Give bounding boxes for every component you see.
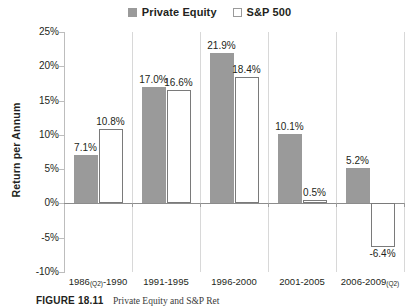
group-separator	[336, 32, 337, 272]
y-axis-tick-mark	[59, 135, 64, 136]
y-axis-tick-mark	[59, 66, 64, 67]
figure-caption: FIGURE 18.11 Private Equity and S&P Ret	[36, 295, 419, 306]
bar-value-label: -6.4%	[363, 249, 403, 259]
bar-private-equity[interactable]	[210, 53, 234, 203]
y-axis-tick-mark	[59, 203, 64, 204]
y-axis-tick-mark	[59, 101, 64, 102]
y-axis-tick-label: 10%	[19, 130, 59, 140]
y-axis-tick-mark	[59, 169, 64, 170]
bar-sp500[interactable]	[99, 129, 123, 203]
plot-area: 7.1%10.8%17.0%16.6%21.9%18.4%10.1%0.5%5.…	[64, 32, 404, 272]
x-axis-category-label: 1986(Q2)-1990	[64, 276, 132, 288]
chart-legend: Private Equity S&P 500	[0, 6, 419, 18]
x-axis-category-label: 1991-1995	[132, 276, 200, 287]
y-axis-tick-mark	[59, 238, 64, 239]
x-axis-tick-mark	[268, 203, 269, 207]
legend-swatch-filled-square-icon	[128, 8, 137, 17]
y-axis-tick-label: 5%	[19, 164, 59, 174]
legend-label-private-equity: Private Equity	[142, 6, 217, 18]
bar-value-label: 10.1%	[270, 122, 310, 132]
x-axis-category-label: 2001-2005	[268, 276, 336, 287]
legend-item-sp500: S&P 500	[233, 6, 292, 18]
y-axis-tick-mark	[59, 32, 64, 33]
bar-value-label: 5.2%	[338, 156, 378, 166]
x-axis-category-label: 2006-2009(Q2)	[336, 276, 404, 288]
y-axis-tick-label: 15%	[19, 96, 59, 106]
y-axis-tick-label: 0%	[19, 198, 59, 208]
x-axis-tick-mark	[132, 203, 133, 207]
bar-sp500[interactable]	[371, 203, 395, 247]
group-separator	[132, 32, 133, 272]
bar-sp500[interactable]	[303, 200, 327, 203]
y-axis-tick-label: 25%	[19, 27, 59, 37]
bar-sp500[interactable]	[235, 77, 259, 203]
bar-private-equity[interactable]	[74, 155, 98, 204]
y-axis-tick-label: -5%	[19, 233, 59, 243]
group-separator	[268, 32, 269, 272]
y-axis-tick-label: 20%	[19, 61, 59, 71]
legend-item-private-equity: Private Equity	[128, 6, 217, 18]
group-separator	[404, 32, 405, 272]
bar-value-label: 16.6%	[159, 78, 199, 88]
bar-value-label: 21.9%	[202, 41, 242, 51]
x-axis-tick-mark	[200, 203, 201, 207]
x-axis-tick-mark	[336, 203, 337, 207]
group-separator	[200, 32, 201, 272]
legend-swatch-outlined-square-icon	[233, 8, 242, 17]
bar-value-label: 0.5%	[295, 188, 335, 198]
legend-label-sp500: S&P 500	[247, 6, 292, 18]
bar-value-label: 18.4%	[227, 65, 267, 75]
x-axis-labels: 1986(Q2)-19901991-19951996-20002001-2005…	[64, 276, 404, 292]
x-axis-tick-mark	[404, 203, 405, 207]
figure-number: FIGURE 18.11	[36, 295, 103, 306]
bar-private-equity[interactable]	[142, 87, 166, 204]
bar-private-equity[interactable]	[346, 168, 370, 204]
y-axis-labels: 25%20%15%10%5%0%-5%-10%	[10, 32, 59, 273]
x-axis-category-label: 1996-2000	[200, 276, 268, 287]
bar-value-label: 10.8%	[91, 117, 131, 127]
figure-caption-text: Private Equity and S&P Ret	[113, 296, 219, 306]
y-axis-tick-label: -10%	[19, 267, 59, 277]
y-axis-tick-mark	[59, 272, 64, 273]
bar-sp500[interactable]	[167, 90, 191, 204]
